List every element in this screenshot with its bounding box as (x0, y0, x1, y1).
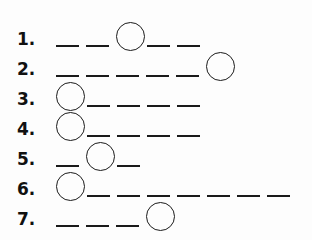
letter-blank[interactable] (147, 195, 170, 197)
worksheet-item-6: 6. (0, 172, 312, 202)
worksheet-item-3: 3. (0, 82, 312, 112)
circled-blank[interactable] (206, 52, 235, 81)
circled-blank[interactable] (86, 142, 115, 171)
item-number: 6. (17, 181, 35, 198)
letter-blank[interactable] (117, 135, 140, 137)
circled-blank[interactable] (56, 172, 85, 201)
letter-blank[interactable] (56, 225, 79, 227)
worksheet-item-7: 7. (0, 202, 312, 232)
letter-blank[interactable] (87, 105, 110, 107)
item-number: 7. (17, 211, 35, 228)
letter-blank[interactable] (177, 105, 200, 107)
letter-blank[interactable] (86, 75, 109, 77)
letter-blank[interactable] (87, 135, 110, 137)
letter-blank[interactable] (56, 45, 79, 47)
item-number: 1. (17, 31, 35, 48)
worksheet-item-1: 1. (0, 22, 312, 52)
letter-blank[interactable] (147, 105, 170, 107)
circled-blank[interactable] (116, 22, 145, 51)
circled-blank[interactable] (146, 202, 175, 231)
letter-blank[interactable] (176, 75, 199, 77)
item-number: 2. (17, 61, 35, 78)
letter-blank[interactable] (177, 195, 200, 197)
letter-blank[interactable] (56, 165, 79, 167)
letter-blank[interactable] (177, 135, 200, 137)
circled-blank[interactable] (56, 112, 85, 141)
letter-blank[interactable] (116, 75, 139, 77)
letter-blank[interactable] (207, 195, 230, 197)
worksheet-item-2: 2. (0, 52, 312, 82)
item-number: 3. (17, 91, 35, 108)
letter-blank[interactable] (146, 75, 169, 77)
letter-blank[interactable] (86, 45, 109, 47)
letter-blank[interactable] (86, 225, 109, 227)
letter-blank[interactable] (117, 165, 140, 167)
worksheet-item-4: 4. (0, 112, 312, 142)
letter-blank[interactable] (116, 225, 139, 227)
worksheet-item-5: 5. (0, 142, 312, 172)
circled-blank[interactable] (56, 82, 85, 111)
letter-blank[interactable] (267, 195, 290, 197)
letter-blank[interactable] (237, 195, 260, 197)
letter-blank[interactable] (147, 135, 170, 137)
item-number: 5. (17, 151, 35, 168)
letter-blank[interactable] (177, 45, 200, 47)
letter-blank[interactable] (56, 75, 79, 77)
letter-blank[interactable] (147, 45, 170, 47)
letter-blank[interactable] (117, 195, 140, 197)
letter-blank[interactable] (87, 195, 110, 197)
item-number: 4. (17, 121, 35, 138)
letter-blank[interactable] (117, 105, 140, 107)
